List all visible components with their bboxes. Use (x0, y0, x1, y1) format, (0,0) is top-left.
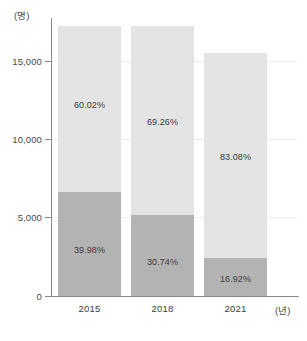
bar-2015-upper-percent-label: 60.02% (58, 100, 121, 110)
x-label-2021: 2021 (204, 303, 267, 314)
x-axis-unit-label: (년) (275, 303, 290, 317)
y-tick-mark-5000 (45, 217, 52, 218)
stacked-bar-chart: (명) (년) 15,000 10,000 5,000 0 60.02% 39.… (0, 0, 307, 341)
bar-2018-lower-segment[interactable] (131, 215, 194, 296)
bar-2018-lower-percent-label: 30.74% (131, 257, 194, 267)
bar-2015[interactable] (58, 26, 121, 296)
y-tick-label-15000: 15,000 (0, 56, 42, 67)
y-axis-unit-label: (명) (14, 8, 29, 22)
bar-2018-upper-percent-label: 69.26% (131, 117, 194, 127)
bar-2021-upper-percent-label: 83.08% (204, 152, 267, 162)
y-axis-line (51, 18, 52, 297)
bar-2021-lower-percent-label: 16.92% (204, 274, 267, 284)
bar-2015-lower-segment[interactable] (58, 192, 121, 296)
y-tick-label-5000: 5,000 (0, 212, 42, 223)
bar-2021[interactable] (204, 53, 267, 296)
bar-2015-lower-percent-label: 39.98% (58, 245, 121, 255)
y-tick-label-10000: 10,000 (0, 134, 42, 145)
x-axis-line (51, 296, 299, 297)
y-tick-label-0: 0 (0, 291, 42, 302)
x-label-2015: 2015 (58, 303, 121, 314)
bar-2018[interactable] (131, 26, 194, 296)
y-tick-mark-0 (45, 296, 52, 297)
x-label-2018: 2018 (131, 303, 194, 314)
y-tick-mark-10000 (45, 139, 52, 140)
y-tick-mark-15000 (45, 61, 52, 62)
